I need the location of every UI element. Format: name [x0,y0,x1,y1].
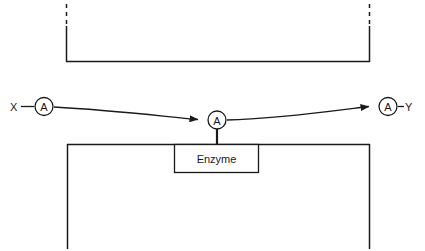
node-right-label: A [384,101,392,113]
node-left: A [35,98,53,116]
connector-left-to-center-arrow [54,107,198,120]
diagram-canvas: Enzyme A A A X Y [0,0,425,251]
node-center: A [208,111,226,129]
terminal-label-x: X [10,101,18,113]
node-right: A [379,98,397,116]
terminal-label-y: Y [405,101,413,113]
node-center-label: A [213,115,221,127]
node-left-label: A [40,101,48,113]
enzyme-box: Enzyme [175,145,259,173]
connector-center-to-right-arrow [227,107,369,121]
enzyme-box-label: Enzyme [197,153,237,165]
enzyme-pathway-diagram: Enzyme A A A X Y [0,0,425,251]
top-bracket [66,4,370,62]
